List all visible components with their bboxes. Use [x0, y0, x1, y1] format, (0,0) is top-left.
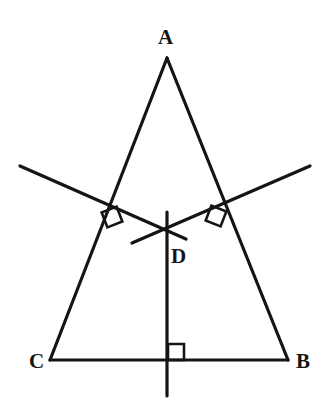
vertex-label-a: A: [158, 27, 173, 48]
perpendicular-bisector-right: [132, 166, 310, 243]
right-angle-marker-icon-cb: [168, 344, 184, 360]
vertex-label-c: C: [29, 351, 44, 372]
triangle-side-ab: [167, 58, 288, 360]
perpendicular-bisector-left: [20, 166, 186, 239]
vertex-label-b: B: [296, 351, 310, 372]
vertex-label-d: D: [171, 246, 186, 267]
geometry-figure: [0, 0, 326, 416]
